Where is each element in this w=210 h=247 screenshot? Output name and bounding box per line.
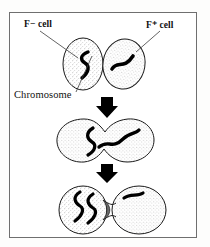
conjugation-figure: F− cell F⁺ cell Chromosome	[0, 0, 210, 247]
label-f-minus-cell: F− cell	[24, 19, 52, 29]
label-chromosome: Chromosome	[14, 89, 72, 100]
label-f-plus-cell: F⁺ cell	[146, 19, 174, 30]
figure-border	[9, 12, 197, 238]
